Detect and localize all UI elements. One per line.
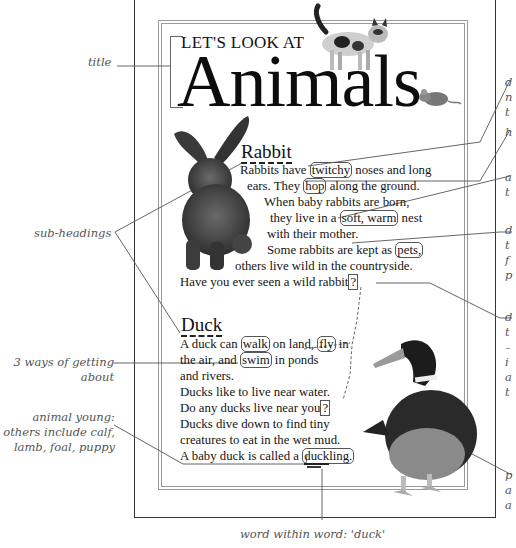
highlight-fly: fly	[317, 336, 335, 352]
duck-photo	[343, 326, 483, 500]
duck-line-7: creatures to eat in the wet mud.	[180, 433, 340, 449]
highlight-twitchy: twitchy	[310, 162, 352, 178]
annotation-fragment: t	[505, 185, 512, 200]
text: the air, and	[180, 353, 240, 367]
subheading-rabbit: Rabbit	[241, 142, 292, 164]
text: ears. They	[247, 179, 303, 193]
annotation-right-4: d t f p	[505, 223, 512, 283]
annotation-line: about	[10, 370, 114, 385]
subheading-duck: Duck	[181, 315, 222, 337]
rabbit-line-4: they live in a soft, warm nest	[270, 211, 422, 227]
annotation-fragment: t	[505, 238, 512, 253]
rabbit-line-5: with their mother.	[267, 227, 358, 243]
annotation-right-3: a t	[505, 170, 512, 200]
annotation-fragment: f	[505, 253, 512, 268]
rabbit-line-2: ears. They hop along the ground.	[247, 179, 420, 195]
duck-line-6: Ducks dive down to find tiny	[180, 417, 330, 433]
text: A baby duck is called a	[180, 449, 302, 463]
text: along the ground.	[326, 179, 419, 193]
annotation-fragment: t	[505, 385, 512, 400]
text: Rabbits have	[240, 163, 310, 177]
annotation-fragment: h	[505, 125, 512, 140]
mouse-photo	[418, 86, 462, 110]
text: Some rabbits are kept as	[267, 243, 395, 257]
cat-photo	[312, 2, 394, 74]
highlight-soft-warm: soft, warm	[340, 210, 399, 226]
annotation-line: 3 ways of getting	[10, 355, 114, 370]
rabbit-line-8: Have you ever seen a wild rabbit?	[180, 275, 358, 291]
rabbit-line-7: others live wild in the countryside.	[235, 259, 413, 275]
rabbit-line-1: Rabbits have twitchy noses and long	[240, 163, 431, 179]
annotation-fragment: p	[505, 268, 512, 283]
annotation-fragment: i	[505, 355, 512, 370]
text: on land,	[270, 337, 318, 351]
annotation-fragment: a	[505, 498, 512, 513]
text: Have you ever seen a wild rabbit	[180, 275, 348, 289]
text: they live in a	[270, 211, 340, 225]
highlight-hop: hop	[303, 178, 326, 194]
duck-line-4: Ducks like to live near water.	[180, 385, 330, 401]
annotation-fragment: t	[505, 325, 512, 340]
rabbit-line-6: Some rabbits are kept as pets,	[267, 243, 423, 259]
annotation-fragment: p	[505, 468, 512, 483]
annotation-line: others include calf,	[0, 425, 115, 440]
text: Do any ducks live near you	[180, 401, 320, 415]
annotation-fragment: –	[505, 340, 512, 355]
annotation-fragment: d	[505, 75, 512, 90]
rabbit-photo	[172, 112, 254, 272]
annotation-fragment: a	[505, 370, 512, 385]
annotation-right-2: h	[505, 125, 512, 140]
annotation-title: title	[88, 55, 111, 70]
text: in	[336, 337, 349, 351]
annotation-fragment: d	[505, 310, 512, 325]
duck-line-2: the air, and swim in ponds	[180, 353, 319, 369]
highlight-swim: swim	[240, 352, 272, 368]
highlight-walk: walk	[241, 336, 270, 352]
text: ling.	[329, 449, 352, 463]
highlight-pets: pets,	[395, 242, 423, 258]
annotation-word-within-word: word within word: 'duck'	[240, 527, 385, 542]
annotation-subheadings: sub-headings	[34, 226, 111, 241]
annotation-animal-young: animal young: others include calf, lamb,…	[0, 410, 115, 455]
annotation-ways-of-getting-about: 3 ways of getting about	[10, 355, 114, 385]
text: in ponds	[272, 353, 319, 367]
text: nest	[398, 211, 422, 225]
highlight-question-mark: ?	[348, 274, 358, 290]
duck-line-5: Do any ducks live near you?	[180, 401, 330, 417]
duck-line-1: A duck can walk on land, fly in	[180, 337, 349, 353]
annotation-fragment: t	[505, 105, 512, 120]
annotation-right-5: d t – i a t	[505, 310, 512, 400]
annotation-fragment: a	[505, 483, 512, 498]
annotation-right-6: p a a	[505, 468, 512, 513]
text: A duck can	[180, 337, 241, 351]
annotation-right-1: d n t	[505, 75, 512, 120]
annotation-line: lamb, foal, puppy	[0, 440, 115, 455]
annotation-line: animal young:	[0, 410, 115, 425]
highlight-question-mark: ?	[320, 400, 330, 416]
annotation-fragment: a	[505, 170, 512, 185]
text: noses and long	[352, 163, 431, 177]
annotation-fragment: d	[505, 223, 512, 238]
highlight-duckling: duckling.	[302, 448, 354, 464]
rabbit-line-3: When baby rabbits are born,	[264, 195, 409, 211]
duck-line-8: A baby duck is called a duckling.	[180, 449, 354, 465]
annotation-fragment: n	[505, 90, 512, 105]
duck-line-3: and rivers.	[180, 369, 234, 385]
underlined-duck: duck	[304, 449, 329, 465]
